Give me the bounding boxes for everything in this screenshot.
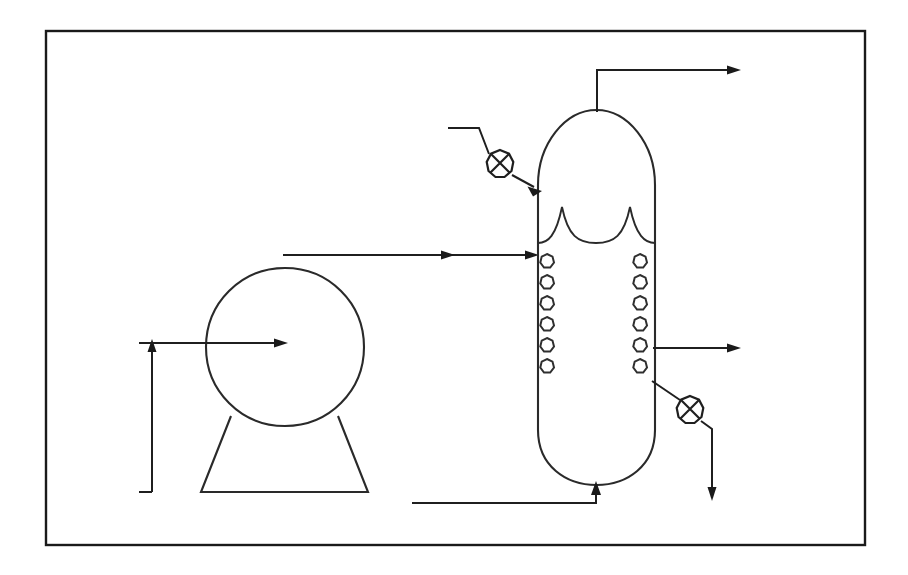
packing-ring — [633, 359, 647, 373]
packing-ring — [540, 338, 554, 352]
packing-ring — [540, 254, 554, 268]
diagram-canvas — [0, 0, 908, 575]
packing-ring — [633, 338, 647, 352]
packing-rings-right — [633, 254, 647, 373]
column-bottom-line — [412, 493, 596, 503]
packing-ring — [540, 317, 554, 331]
overhead-line — [597, 70, 731, 112]
bottoms-draw-valve[interactable] — [677, 396, 704, 423]
vertical-column — [538, 110, 655, 485]
top-feed-line-in — [448, 128, 489, 154]
packing-ring — [633, 317, 647, 331]
top-feed-valve[interactable] — [487, 150, 514, 177]
saddle-support — [201, 416, 368, 492]
drum-recycle-riser — [139, 339, 157, 492]
arrow-right-icon-sidedraw — [727, 343, 741, 352]
arrow-downright-icon — [528, 187, 543, 197]
horizontal-drum — [201, 268, 368, 492]
packing-ring — [633, 275, 647, 289]
arrow-right-icon — [274, 338, 288, 347]
overhead-vapour-outlet — [597, 65, 741, 112]
packing-ring — [540, 296, 554, 310]
bottoms-line-in — [652, 381, 680, 400]
demister-pads — [538, 207, 655, 243]
packing-rings-left — [540, 254, 554, 373]
arrow-up-icon — [148, 339, 157, 352]
column-bottom-inlet — [412, 481, 601, 503]
arrow-right-icon-overhead — [727, 65, 741, 74]
diagram-border — [46, 31, 865, 545]
arrow-up-icon-bottom-inlet — [591, 481, 601, 495]
arrow-right-icon-mid — [441, 250, 455, 259]
process-flow-diagram — [0, 0, 908, 575]
demister-profile — [538, 207, 655, 243]
packing-ring — [633, 296, 647, 310]
side-draw-outlet — [653, 343, 741, 352]
drum-centre-inlet — [139, 338, 288, 347]
mid-feed-inlet-from-drum — [283, 250, 539, 259]
drum-shell — [206, 268, 364, 426]
bottoms-line-out — [701, 421, 712, 490]
arrow-down-icon-bottoms — [708, 487, 717, 501]
packing-ring — [540, 275, 554, 289]
arrow-right-icon-feed — [525, 250, 539, 259]
packing-ring — [633, 254, 647, 268]
top-feed-line-out — [512, 175, 534, 187]
packing-ring — [540, 359, 554, 373]
